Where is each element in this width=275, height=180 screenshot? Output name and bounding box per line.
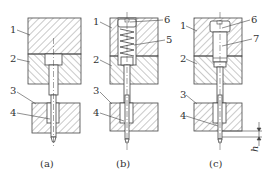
plate-3 <box>110 103 158 131</box>
caption-c: (c) <box>209 158 223 169</box>
svg-text:7: 7 <box>253 33 259 44</box>
svg-text:h: h <box>249 146 260 152</box>
svg-text:6: 6 <box>251 14 257 25</box>
svg-text:6: 6 <box>164 14 170 25</box>
svg-text:3: 3 <box>10 85 16 96</box>
svg-text:3: 3 <box>180 89 186 100</box>
svg-text:1: 1 <box>180 20 186 31</box>
svg-text:1: 1 <box>93 16 99 27</box>
svg-text:5: 5 <box>166 34 172 45</box>
svg-text:4: 4 <box>93 107 99 118</box>
panel-a: 1 2 3 4 (a) <box>10 18 81 169</box>
caption-b: (b) <box>116 158 130 169</box>
plate-1 <box>28 18 81 54</box>
svg-text:2: 2 <box>93 54 99 65</box>
panel-c: h 1 2 3 4 6 7 (c) <box>180 12 262 169</box>
svg-text:2: 2 <box>180 53 186 64</box>
pilot-pin-diagram: 1 2 3 4 (a) 1 2 3 <box>0 0 275 180</box>
svg-text:2: 2 <box>10 53 16 64</box>
svg-text:1: 1 <box>10 24 16 35</box>
svg-text:4: 4 <box>180 110 186 121</box>
caption-a: (a) <box>40 158 54 169</box>
svg-text:3: 3 <box>93 85 99 96</box>
panel-b: 1 2 3 4 6 5 (b) <box>93 12 172 169</box>
svg-text:4: 4 <box>10 107 16 118</box>
